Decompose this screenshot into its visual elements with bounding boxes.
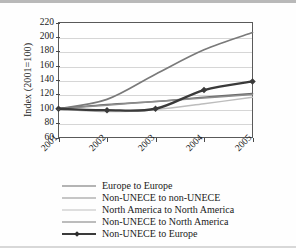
legend-swatch-icon	[60, 204, 98, 216]
legend-item[interactable]: North America to North America	[60, 204, 280, 216]
legend-item[interactable]: Non-UNECE to Europe	[60, 228, 280, 240]
y-tick-mark	[56, 123, 60, 124]
legend-label: Non-UNECE to non-UNECE	[98, 192, 220, 204]
legend-swatch-icon	[60, 216, 98, 228]
legend-label: Non-UNECE to North America	[98, 216, 228, 228]
legend-swatch-icon	[60, 180, 98, 192]
y-tick-mark	[56, 109, 60, 110]
y-tick-mark	[56, 51, 60, 52]
y-tick-mark	[56, 94, 60, 95]
chart-legend: Europe to EuropeNon-UNECE to non-UNECENo…	[60, 180, 280, 240]
data-point-marker	[249, 78, 256, 85]
y-tick-mark	[56, 37, 60, 38]
legend-label: Europe to Europe	[98, 180, 173, 192]
y-tick-mark	[56, 66, 60, 67]
series-line	[59, 33, 253, 109]
data-point-marker	[201, 87, 208, 94]
legend-swatch-icon	[60, 192, 98, 204]
data-point-marker	[152, 105, 159, 112]
y-tick-mark	[56, 23, 60, 24]
y-tick-mark	[56, 80, 60, 81]
legend-label: North America to North America	[98, 204, 234, 216]
legend-item[interactable]: Non-UNECE to North America	[60, 216, 280, 228]
legend-item[interactable]: Europe to Europe	[60, 180, 280, 192]
legend-item[interactable]: Non-UNECE to non-UNECE	[60, 192, 280, 204]
legend-label: Non-UNECE to Europe	[98, 228, 198, 240]
y-tick-mark	[56, 138, 60, 139]
data-point-marker	[104, 107, 111, 114]
legend-swatch-icon	[60, 228, 98, 240]
chart-figure: Index (2001=100) 22020018016014012010080…	[0, 0, 296, 248]
